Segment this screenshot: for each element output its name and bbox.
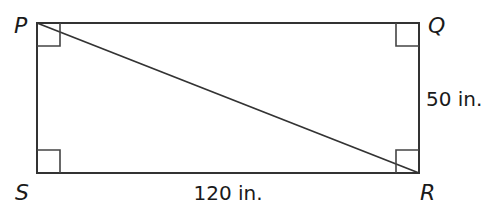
rectangle-diagram: P Q S R 50 in. 120 in. <box>0 0 493 210</box>
vertex-label-s: S <box>15 180 29 205</box>
measurement-label-sr: 120 in. <box>193 181 262 205</box>
measurement-label-qr: 50 in. <box>426 87 482 111</box>
right-angle-marker-q <box>396 23 419 46</box>
vertex-label-p: P <box>14 13 28 38</box>
diagonal-pr <box>37 23 419 173</box>
right-angle-marker-p <box>37 23 60 46</box>
vertex-label-r: R <box>420 180 435 205</box>
right-angle-marker-r <box>396 150 419 173</box>
vertex-label-q: Q <box>428 13 445 38</box>
right-angle-marker-s <box>37 150 60 173</box>
